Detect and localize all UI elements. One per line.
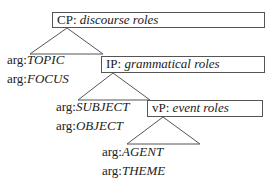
cp-node-box: CP: discourse roles: [52, 12, 265, 28]
vp-arg-theme: arg:THEME: [102, 164, 165, 177]
cp-node-desc: discourse roles: [80, 12, 159, 27]
cp-node-label: CP: [57, 12, 73, 27]
vp-arg-agent: arg:AGENT: [102, 145, 163, 158]
ip-node-box: IP: grammatical roles: [101, 56, 265, 73]
vp-node-desc: event roles: [173, 100, 229, 115]
vp-node-label: vP: [152, 100, 166, 115]
ip-node-label: IP: [106, 56, 118, 71]
vp-triangle: [127, 117, 200, 144]
ip-triangle: [78, 73, 150, 100]
vp-node-box: vP: event roles: [147, 100, 263, 117]
cp-arg-topic: arg:TOPIC: [7, 53, 64, 66]
ip-arg-subject: arg:SUBJECT: [56, 100, 129, 113]
ip-arg-object: arg:OBJECT: [56, 119, 123, 132]
cp-arg-focus: arg:FOCUS: [7, 72, 69, 85]
cp-triangle: [30, 28, 103, 54]
ip-node-desc: grammatical roles: [124, 56, 219, 71]
